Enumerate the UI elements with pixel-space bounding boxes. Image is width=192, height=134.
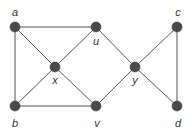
edge-v-y [96,67,135,106]
node-y [130,62,140,72]
edge-u-x [55,27,96,67]
node-u [91,22,101,32]
node-label-u: u [93,35,99,47]
node-d [172,101,182,111]
node-label-y: y [131,74,139,86]
node-label-c: c [175,6,181,18]
node-label-a: a [12,6,18,18]
node-label-v: v [94,117,101,129]
node-a [10,22,20,32]
node-label-b: b [12,117,18,129]
edge-x-b [15,67,55,106]
node-x [50,62,60,72]
edge-u-y [96,27,135,67]
edge-a-x [15,27,55,67]
node-label-d: d [175,117,182,129]
node-label-x: x [51,74,58,86]
node-c [172,22,182,32]
node-v [91,101,101,111]
graph-diagram: aucxybvd [0,0,192,134]
node-b [10,101,20,111]
edge-y-d [135,67,177,106]
edge-y-c [135,27,177,67]
edge-x-v [55,67,96,106]
